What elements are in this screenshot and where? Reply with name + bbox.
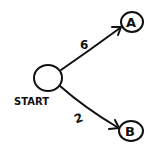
node-a-label: A <box>126 15 136 30</box>
edge-weight-a: 6 <box>80 38 88 52</box>
edge-weight-b: 2 <box>72 110 85 126</box>
node-b: B <box>119 121 143 141</box>
edge-start-to-b: 2 <box>60 86 119 129</box>
graph-diagram: START 6 2 A B <box>0 0 160 156</box>
node-a: A <box>121 12 143 32</box>
node-start-label: START <box>14 96 49 107</box>
edge-start-to-a: 6 <box>61 27 121 70</box>
node-start: START <box>14 65 62 107</box>
node-b-label: B <box>125 124 135 139</box>
